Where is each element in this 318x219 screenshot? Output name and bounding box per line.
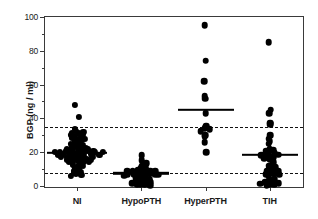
- y-tick-mark: [40, 17, 45, 18]
- mean-bar-hyperpth: [178, 109, 234, 111]
- mean-bar-hypopth: [113, 172, 169, 174]
- x-tick-label-ni: NI: [73, 196, 82, 206]
- y-tick-label: 20: [29, 147, 38, 157]
- data-point: [86, 159, 92, 165]
- data-point: [201, 78, 208, 85]
- x-tick-label-hypopth: HypoPTH: [121, 196, 161, 206]
- y-minor-tick-mark: [42, 101, 45, 102]
- data-point: [134, 181, 141, 188]
- mean-bar-ni: [47, 152, 107, 154]
- mean-bar-tih: [242, 153, 298, 155]
- x-tick-mark: [77, 187, 78, 191]
- y-tick-label: 0: [33, 181, 38, 191]
- y-minor-tick-mark: [42, 34, 45, 35]
- data-point: [68, 173, 74, 179]
- x-tick-mark: [206, 187, 207, 191]
- y-tick-label: 60: [29, 80, 38, 90]
- y-tick-label: 80: [29, 46, 38, 56]
- data-point: [72, 102, 78, 108]
- y-tick-mark: [40, 85, 45, 86]
- y-tick-label: 100: [24, 12, 38, 22]
- y-minor-tick-mark: [42, 135, 45, 136]
- bgp-scatter-figure: BGP (ng / ml) 020406080100NIHypoPTHHyper…: [0, 0, 318, 219]
- y-tick-mark: [40, 118, 45, 119]
- plot-area: 020406080100NIHypoPTHHyperPTHTIH: [44, 16, 304, 188]
- x-tick-mark: [270, 187, 271, 191]
- y-tick-mark: [40, 152, 45, 153]
- data-point: [147, 182, 154, 189]
- data-point: [271, 181, 278, 188]
- y-tick-label: 40: [29, 113, 38, 123]
- data-point: [201, 22, 208, 29]
- data-point: [265, 39, 272, 46]
- data-point: [76, 113, 82, 119]
- data-point: [263, 182, 270, 189]
- data-point: [201, 139, 208, 146]
- plot-inner: 020406080100NIHypoPTHHyperPTHTIH: [45, 17, 303, 187]
- x-tick-mark: [141, 187, 142, 191]
- y-minor-tick-mark: [42, 169, 45, 170]
- y-minor-tick-mark: [42, 68, 45, 69]
- y-tick-mark: [40, 51, 45, 52]
- data-point: [266, 110, 273, 117]
- x-tick-label-tih: TIH: [263, 196, 277, 206]
- data-point: [202, 96, 209, 103]
- data-point: [78, 172, 84, 178]
- x-tick-label-hyperpth: HyperPTH: [184, 196, 227, 206]
- reference-line: [45, 127, 303, 128]
- data-point: [203, 149, 210, 156]
- y-tick-mark: [40, 186, 45, 187]
- data-point: [202, 58, 209, 65]
- data-point: [267, 121, 274, 128]
